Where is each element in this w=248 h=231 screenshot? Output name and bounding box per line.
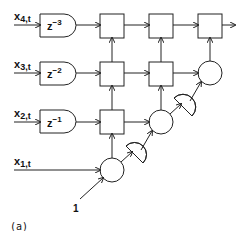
delay-labels: z−3 z−2 z−1 [47, 18, 62, 129]
cell-3-1 [100, 110, 124, 134]
constant-input-label: 1 [73, 203, 79, 214]
cell-2-2 [149, 62, 173, 86]
circle-node-1 [100, 158, 124, 182]
cell-1-2 [149, 14, 173, 38]
circle-node-2 [149, 110, 173, 134]
svg-text:z−2: z−2 [47, 66, 62, 80]
svg-text:x4,t: x4,t [14, 10, 31, 24]
cell-2-1 [100, 62, 124, 86]
figure-caption: (a) [10, 221, 28, 231]
input-labels: x4,t x3,t x2,t x1,t [14, 10, 31, 169]
row-x3 [14, 61, 222, 86]
cell-1-3 [198, 14, 222, 38]
cell-1-1 [100, 14, 124, 38]
circle-node-3 [198, 61, 222, 85]
row-x2 [14, 110, 173, 134]
systolic-array-diagram: x4,t x3,t x2,t x1,t z−3 z−2 z−1 1 (a) [0, 0, 248, 231]
svg-text:z−3: z−3 [47, 18, 62, 32]
svg-text:x3,t: x3,t [14, 58, 31, 72]
svg-text:x1,t: x1,t [14, 155, 31, 169]
svg-text:x2,t: x2,t [14, 107, 31, 121]
svg-text:z−1: z−1 [47, 115, 62, 129]
